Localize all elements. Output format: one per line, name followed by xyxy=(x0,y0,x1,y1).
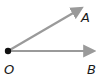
vertex-point-o xyxy=(5,48,11,54)
label-a: A xyxy=(81,11,90,24)
ray-oa xyxy=(8,9,80,51)
angle-diagram: A B O xyxy=(0,0,105,77)
label-b: B xyxy=(87,63,96,76)
label-o: O xyxy=(4,63,14,76)
